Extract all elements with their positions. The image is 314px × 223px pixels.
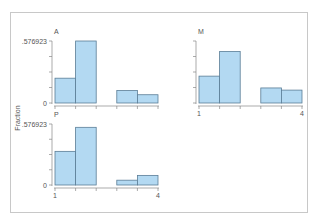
- panel-title-M: M: [198, 28, 204, 35]
- histogram-bar: [137, 175, 158, 185]
- histogram-bar: [137, 95, 158, 103]
- y-tick-label-zero: 0: [43, 100, 47, 107]
- y-tick-label-zero: 0: [43, 182, 47, 189]
- histogram-chart: A.5769230M14P.576923014Fraction: [0, 0, 314, 223]
- histogram-bar: [55, 78, 76, 103]
- x-tick-label-min: 1: [53, 192, 57, 199]
- panel-title-A: A: [54, 28, 59, 35]
- histogram-bar: [199, 76, 220, 103]
- x-tick-label-max: 4: [156, 192, 160, 199]
- y-tick-label-top: .576923: [22, 121, 47, 128]
- histogram-bar: [76, 127, 97, 185]
- y-axis-label: Fraction: [14, 105, 21, 130]
- histogram-bar: [117, 91, 138, 103]
- histogram-bar: [117, 180, 138, 185]
- x-tick-label-max: 4: [300, 110, 304, 117]
- histogram-bar: [261, 88, 282, 103]
- histogram-bar: [220, 51, 241, 103]
- y-tick-label-top: .576923: [22, 38, 47, 45]
- histogram-bar: [76, 41, 97, 103]
- x-tick-label-min: 1: [197, 110, 201, 117]
- histogram-bar: [281, 90, 302, 103]
- histogram-bar: [55, 151, 76, 185]
- panel-title-P: P: [54, 111, 59, 118]
